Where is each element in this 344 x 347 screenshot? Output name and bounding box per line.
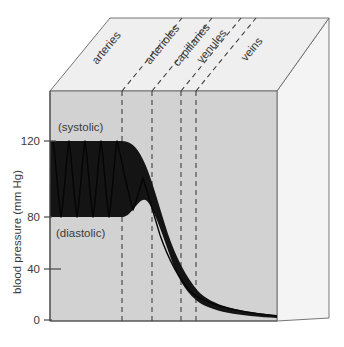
- y-tick-label-0: 0: [34, 314, 40, 326]
- blood-pressure-figure: 120 80 40 0 blood pressure (mm Hg) (syst…: [0, 0, 344, 347]
- y-tick-label-120: 120: [21, 135, 40, 147]
- y-tick-label-40: 40: [27, 263, 40, 275]
- systolic-label: (systolic): [58, 121, 104, 133]
- y-axis-title: blood pressure (mm Hg): [11, 170, 23, 294]
- diastolic-label: (diastolic): [56, 227, 105, 239]
- figure-svg: 120 80 40 0 blood pressure (mm Hg) (syst…: [0, 0, 344, 347]
- y-tick-label-80: 80: [27, 211, 40, 223]
